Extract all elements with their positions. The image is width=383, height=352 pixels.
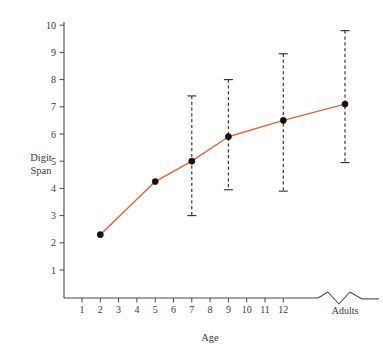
data-point-marker [152, 179, 158, 185]
data-point-marker [189, 158, 195, 164]
x-tick-label: 12 [278, 304, 288, 315]
series-line [100, 104, 345, 235]
x-tick-label: 2 [98, 304, 103, 315]
x-tick-label: 1 [80, 304, 85, 315]
x-axis-ticks: 123456789101112Adults [80, 298, 359, 316]
x-tick-label: 6 [171, 304, 176, 315]
data-point-marker [342, 101, 348, 107]
x-tick-label: 11 [260, 304, 270, 315]
error-bars [187, 31, 349, 216]
y-axis-label-line1: Digit [30, 152, 52, 163]
x-tick-label-adults: Adults [332, 305, 359, 316]
y-tick-label: 4 [51, 183, 56, 194]
x-tick-label: 10 [242, 304, 252, 315]
data-points [97, 101, 348, 238]
x-tick-label: 9 [226, 304, 231, 315]
y-tick-label: 1 [51, 265, 56, 276]
y-tick-label: 10 [46, 20, 56, 31]
x-tick-label: 5 [153, 304, 158, 315]
x-tick-label: 4 [134, 304, 139, 315]
axes [64, 22, 379, 304]
y-tick-label: 8 [51, 74, 56, 85]
data-point-marker [280, 117, 286, 123]
x-tick-label: 8 [208, 304, 213, 315]
y-tick-label: 7 [51, 101, 56, 112]
digit-span-line-chart: 123456789101112Adults 12345678910 Digit … [0, 0, 383, 352]
x-tick-label: 7 [189, 304, 194, 315]
y-tick-label: 3 [51, 210, 56, 221]
x-tick-label: 3 [116, 304, 121, 315]
y-tick-label: 2 [51, 237, 56, 248]
chart-canvas: 123456789101112Adults 12345678910 Digit … [0, 0, 383, 352]
y-tick-label: 6 [51, 129, 56, 140]
x-axis-break-zigzag [318, 292, 362, 304]
y-axis-ticks: 12345678910 [46, 20, 64, 276]
data-point-marker [225, 134, 231, 140]
x-axis-label: Age [201, 332, 219, 343]
data-point-marker [97, 232, 103, 238]
y-tick-label: 9 [51, 47, 56, 58]
series-polyline [100, 104, 345, 235]
y-axis-label-line2: Span [31, 165, 53, 176]
